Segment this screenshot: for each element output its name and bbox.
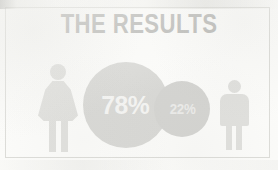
bubble-minor: 22% — [154, 81, 210, 137]
male-figure-icon — [218, 80, 250, 150]
bubble-major-label: 78% — [101, 92, 149, 118]
page-title: THE RESULTS — [25, 9, 253, 39]
bubble-minor-label: 22% — [170, 102, 196, 116]
female-right-leg-shape — [61, 120, 68, 152]
male-right-leg-shape — [236, 125, 242, 150]
female-body-shape — [38, 81, 78, 121]
male-head-shape — [228, 80, 241, 93]
female-head-shape — [50, 64, 66, 80]
male-body-shape — [220, 94, 249, 126]
infographic-screenshot: THE RESULTS 78% 22% — [0, 0, 278, 170]
bottom-edge-smudge — [0, 160, 278, 170]
male-left-leg-shape — [226, 125, 232, 150]
female-figure-icon — [36, 64, 82, 152]
female-left-leg-shape — [49, 120, 56, 152]
